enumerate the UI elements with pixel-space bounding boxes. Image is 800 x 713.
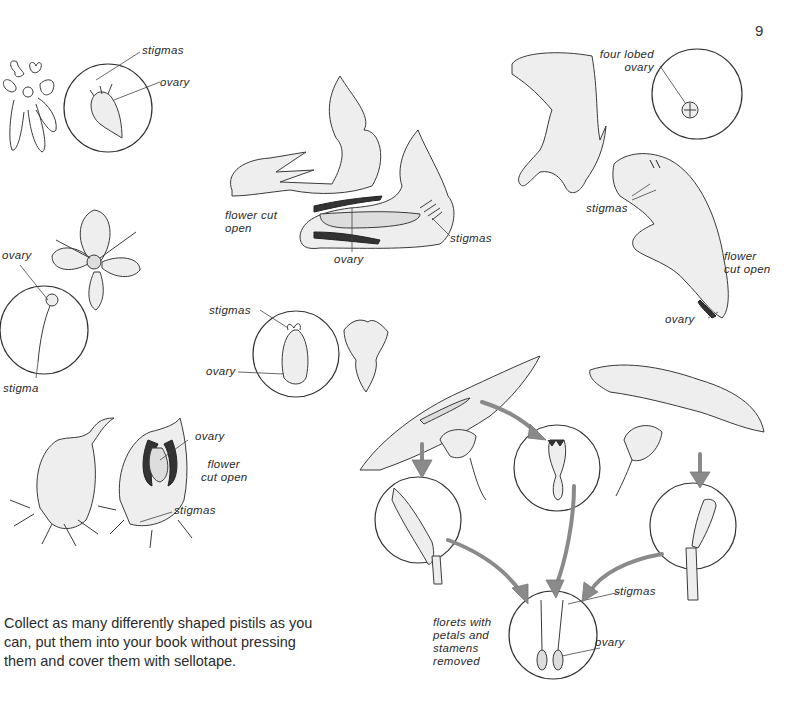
label-florets-line2: petals and <box>433 629 489 642</box>
label-florets-line3: stamens <box>433 642 479 655</box>
double-flower-drawing <box>590 365 764 432</box>
magnified-pistils-circle-bottom <box>509 591 597 679</box>
label-ovary-fig2: ovary <box>334 253 364 266</box>
label-flower-cut-open-fig2-line1: flower cut <box>225 209 277 222</box>
page-number: 9 <box>755 22 763 39</box>
label-flower-cut-open-fig6-line1: flower <box>190 458 240 471</box>
label-stigmas-fig2: stigmas <box>450 232 492 245</box>
figure-7-composite-flowers <box>360 356 764 679</box>
label-flower-cut-open-fig3-line1: flower <box>724 250 756 263</box>
label-four-lobed-ovary-line1: four lobed <box>590 48 654 61</box>
cut-open-lipped-flower-drawing <box>613 154 728 318</box>
figure-2-tubular-flower <box>231 76 454 252</box>
label-stigmas-fig3: stigmas <box>586 202 628 215</box>
label-four-lobed-ovary-line2: ovary <box>590 61 654 74</box>
figure-5-pistil-circle <box>238 310 388 397</box>
label-ovary-fig3: ovary <box>665 313 695 326</box>
label-stigmas-fig6: stigmas <box>174 504 216 517</box>
illustrations <box>0 0 800 713</box>
label-stigmas-fig7: stigmas <box>614 585 656 598</box>
figure-4-star-flower <box>0 210 140 378</box>
label-ovary-fig5: ovary <box>206 365 236 378</box>
label-ovary-fig7: ovary <box>595 636 625 649</box>
label-flower-cut-open-fig2-line2: open <box>225 222 252 235</box>
figure-3-lipped-flower <box>512 49 742 318</box>
magnified-ovary-circle <box>0 286 88 374</box>
label-stigmas-fig1: stigmas <box>142 44 184 57</box>
label-ovary-fig4: ovary <box>2 249 32 262</box>
four-lobed-ovary-circle <box>652 49 742 139</box>
label-flower-cut-open-fig3-line2: cut open <box>724 263 771 276</box>
label-stigmas-fig5: stigmas <box>209 304 251 317</box>
figure-6-bell-flower <box>10 418 192 548</box>
label-ovary-fig1: ovary <box>160 76 190 89</box>
label-stigma-fig4: stigma <box>3 382 39 395</box>
whole-flower-drawing <box>231 76 381 196</box>
label-florets-line4: removed <box>433 655 480 668</box>
instructions-text: Collect as many differently shaped pisti… <box>4 614 324 671</box>
figure-1-flower-and-pistil <box>3 52 160 152</box>
whole-bell-flower-drawing <box>37 418 114 529</box>
flower-side-view-drawing <box>344 320 388 392</box>
label-flower-cut-open-fig6-line2: cut open <box>201 471 248 484</box>
flower-top-view-drawing <box>3 61 56 152</box>
label-ovary-fig6: ovary <box>195 430 225 443</box>
label-florets-line1: florets with <box>433 616 492 629</box>
